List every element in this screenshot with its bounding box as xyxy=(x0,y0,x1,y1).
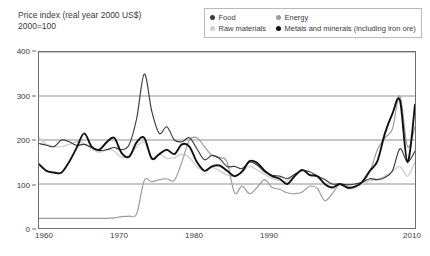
y-axis-label-300: 300 xyxy=(17,91,30,100)
price-index-chart: Price index (real year 2000 US$) 2000=10… xyxy=(0,0,430,256)
legend-marker-raw-materials-icon xyxy=(210,26,215,31)
chart-legend: Food Energy Raw materials Metals and min… xyxy=(204,8,422,38)
y-axis: 400 300 200 100 0 xyxy=(0,44,36,236)
legend-marker-food-icon xyxy=(210,15,215,20)
x-axis-label-1970: 1970 xyxy=(110,231,128,240)
legend-item-metals-and-minerals: Metals and minerals (including iron ore) xyxy=(276,23,417,34)
series-line-energy xyxy=(39,96,415,219)
plot-area xyxy=(38,51,416,229)
y-axis-tick-200 xyxy=(32,140,36,141)
y-axis-label-400: 400 xyxy=(17,47,30,56)
y-axis-tick-300 xyxy=(32,95,36,96)
series-line-metals-and-minerals-including-iron-ore xyxy=(39,98,415,188)
x-axis: 1960 1970 1980 1990 2010 xyxy=(0,231,430,247)
legend-label-raw-materials: Raw materials xyxy=(219,24,267,33)
series-line-food xyxy=(39,74,415,185)
chart-title: Price index (real year 2000 US$) 2000=10… xyxy=(18,10,141,32)
legend-item-energy: Energy xyxy=(276,12,417,23)
x-axis-label-1980: 1980 xyxy=(185,231,203,240)
legend-item-food: Food xyxy=(210,12,272,23)
y-axis-tick-100 xyxy=(32,184,36,185)
chart-subtitle-line-2: 2000=100 xyxy=(18,21,141,32)
legend-label-energy: Energy xyxy=(285,13,309,22)
y-axis-label-200: 200 xyxy=(17,136,30,145)
y-axis-label-100: 100 xyxy=(17,180,30,189)
x-axis-label-1960: 1960 xyxy=(35,231,53,240)
x-axis-label-2010: 2010 xyxy=(403,231,421,240)
series-canvas xyxy=(39,52,415,228)
legend-marker-energy-icon xyxy=(276,15,281,20)
gridlines xyxy=(39,52,415,184)
legend-label-metals-and-minerals: Metals and minerals (including iron ore) xyxy=(285,24,416,33)
chart-title-line-1: Price index (real year 2000 US$) xyxy=(18,10,141,21)
y-axis-tick-0 xyxy=(32,229,36,230)
legend-label-food: Food xyxy=(219,13,236,22)
x-axis-label-1990: 1990 xyxy=(260,231,278,240)
legend-marker-metals-icon xyxy=(276,26,281,31)
legend-item-raw-materials: Raw materials xyxy=(210,23,272,34)
y-axis-tick-400 xyxy=(32,51,36,52)
